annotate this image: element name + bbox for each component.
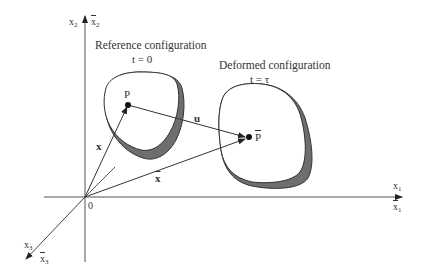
point-p-bar — [246, 134, 252, 140]
reference-body — [104, 72, 184, 159]
x1-sub: 1 — [398, 185, 402, 193]
x1-bar-sub: 1 — [398, 206, 402, 214]
point-p-bar-label: P — [255, 132, 261, 143]
x1-bar-label: x1 — [393, 202, 402, 214]
x3-bar-sub: 3 — [45, 258, 49, 266]
x2-bar-label: x2 — [91, 17, 100, 29]
x3-bar-label: x3 — [40, 254, 49, 266]
point-p-label: P — [124, 89, 130, 100]
x3-sub: 3 — [29, 244, 33, 252]
x-bar-vector-label: x — [155, 173, 161, 184]
point-p — [125, 102, 131, 108]
x1-label: x1 — [393, 181, 402, 193]
x2-label: x2 — [69, 17, 78, 29]
u-vector-label: u — [194, 113, 200, 124]
deformed-time: t = τ — [250, 74, 269, 85]
x-vector-label: x — [96, 141, 102, 152]
deformed-title: Deformed configuration — [219, 60, 330, 72]
reference-title: Reference configuration — [95, 40, 206, 52]
x-vector — [85, 107, 127, 197]
guide-line — [85, 167, 115, 197]
origin-label: 0 — [88, 201, 93, 211]
x2-sub: 2 — [74, 21, 78, 29]
deformed-body — [219, 84, 312, 189]
reference-time: t = 0 — [132, 54, 152, 65]
x3-label: x3 — [24, 240, 33, 252]
x3-axis — [26, 197, 85, 259]
kinematics-diagram — [0, 0, 421, 275]
x2-bar-sub: 2 — [96, 21, 100, 29]
